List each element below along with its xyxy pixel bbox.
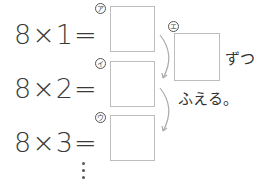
increase-arrows-icon (0, 0, 268, 185)
continuation-dots-icon (82, 162, 86, 183)
